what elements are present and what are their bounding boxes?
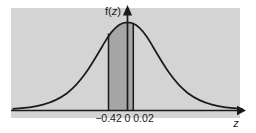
y-axis-label: f(z) [105, 5, 121, 17]
x-axis-label: z [232, 117, 239, 129]
normal-curve-figure: f(z) z −0.42 0 0.02 [0, 0, 256, 133]
tick-label-origin: 0 [125, 112, 131, 124]
tick-label-upper-bound: 0.02 [133, 112, 154, 124]
chart-canvas: f(z) z −0.42 0 0.02 [0, 0, 256, 133]
x-axis-arrowhead [237, 106, 246, 115]
shaded-probability-region [109, 23, 134, 111]
tick-label-lower-bound: −0.42 [95, 112, 122, 124]
